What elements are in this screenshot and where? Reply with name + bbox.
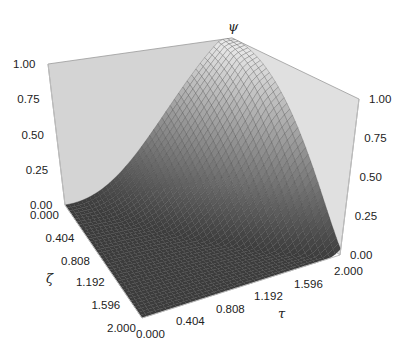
y-tick: 1.596 bbox=[91, 299, 120, 311]
y-tick: 0.000 bbox=[30, 209, 59, 221]
z-tick-right: 0.25 bbox=[355, 210, 377, 222]
z-tick-left: 0.75 bbox=[17, 93, 39, 105]
x-tick: 2.000 bbox=[334, 265, 363, 277]
z-tick-right: 0.00 bbox=[350, 249, 372, 261]
z-tick-left: 1.00 bbox=[13, 58, 35, 70]
z-tick-right: 1.00 bbox=[369, 93, 391, 105]
x-axis-label: τ bbox=[278, 306, 286, 321]
surface-plot: 0.000.250.500.751.000.000.250.500.751.00… bbox=[0, 0, 402, 361]
z-axis-label: ψ bbox=[228, 19, 239, 34]
z-tick-right: 0.75 bbox=[364, 132, 386, 144]
y-axis-label: ζ bbox=[46, 271, 54, 286]
y-tick: 1.192 bbox=[76, 276, 105, 288]
y-tick: 0.808 bbox=[61, 255, 90, 267]
z-tick-left: 0.25 bbox=[26, 164, 48, 176]
x-tick: 0.808 bbox=[216, 303, 245, 315]
x-tick: 1.596 bbox=[294, 278, 323, 290]
x-tick: 0.404 bbox=[176, 315, 205, 327]
x-tick: 0.000 bbox=[136, 328, 165, 340]
y-tick: 2.000 bbox=[107, 322, 136, 334]
x-tick: 1.192 bbox=[254, 290, 283, 302]
z-tick-left: 0.50 bbox=[22, 129, 44, 141]
z-tick-right: 0.50 bbox=[360, 171, 382, 183]
y-tick: 0.404 bbox=[46, 232, 75, 244]
